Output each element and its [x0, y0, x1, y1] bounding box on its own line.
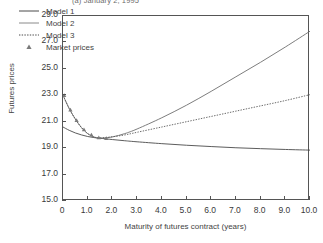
dotted-line-icon — [18, 30, 40, 40]
y-tick-label: 21.0 — [24, 115, 58, 125]
legend-item: Market prices — [18, 41, 138, 53]
x-tick-label: 10.0 — [294, 205, 323, 215]
legend-label: Model 3 — [46, 31, 74, 40]
x-axis-tick-labels: 01.02.03.04.05.06.07.08.09.010.0 — [0, 205, 323, 221]
y-tick-label: 25.0 — [24, 62, 58, 72]
market-price-marker — [97, 135, 101, 139]
legend-item: Model 2 — [18, 17, 138, 29]
y-tick-label: 19.0 — [24, 141, 58, 151]
legend-label: Model 2 — [46, 19, 74, 28]
y-tick-mark — [62, 94, 66, 95]
solid-line-icon — [18, 18, 40, 28]
y-axis-label: Futures prices — [7, 34, 16, 144]
y-tick-label: 15.0 — [24, 194, 58, 204]
y-tick-mark — [62, 121, 66, 122]
x-tick-mark — [62, 196, 63, 200]
x-tick-mark — [136, 196, 137, 200]
legend-label: Market prices — [46, 43, 94, 52]
y-tick-label: 23.0 — [24, 88, 58, 98]
chart-legend: Model 1Model 2Model 3Market prices — [18, 5, 138, 53]
legend-item: Model 3 — [18, 29, 138, 41]
legend-label: Model 1 — [46, 7, 74, 16]
y-tick-mark — [62, 174, 66, 175]
legend-item: Model 1 — [18, 5, 138, 17]
y-tick-label: 17.0 — [24, 168, 58, 178]
y-tick-mark — [62, 200, 66, 201]
series-line-model-3 — [63, 95, 310, 138]
triangle-marker-icon — [18, 42, 40, 52]
x-tick-mark — [161, 196, 162, 200]
x-tick-mark — [309, 196, 310, 200]
y-tick-mark — [62, 147, 66, 148]
x-tick-mark — [186, 196, 187, 200]
futures-prices-chart: (a) January 2, 1995 15.017.019.021.023.0… — [0, 0, 323, 243]
x-tick-mark — [260, 196, 261, 200]
solid-line-icon — [18, 6, 40, 16]
x-tick-mark — [87, 196, 88, 200]
x-tick-mark — [284, 196, 285, 200]
y-tick-mark — [62, 41, 66, 42]
x-axis-label: Maturity of futures contract (years) — [62, 222, 309, 231]
x-tick-mark — [111, 196, 112, 200]
y-tick-mark — [62, 15, 66, 16]
x-tick-mark — [210, 196, 211, 200]
y-tick-mark — [62, 68, 66, 69]
x-tick-mark — [235, 196, 236, 200]
